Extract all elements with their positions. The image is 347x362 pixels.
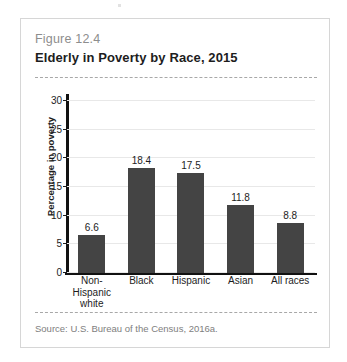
bar[interactable] <box>177 173 204 273</box>
figure-title: Elderly in Poverty by Race, 2015 <box>35 50 238 65</box>
bar-column[interactable]: 17.5 <box>177 101 204 273</box>
dashed-rule-bottom <box>35 312 317 313</box>
x-tick-label: Non-Hispanicwhite <box>67 275 117 310</box>
bar-column[interactable]: 6.6 <box>78 101 105 273</box>
bar-column[interactable]: 8.8 <box>277 101 304 273</box>
y-tick-label: 0 <box>56 267 62 278</box>
bar-value-label: 18.4 <box>132 155 151 166</box>
bar-value-label: 8.8 <box>283 210 297 221</box>
bar-value-label: 17.5 <box>181 160 200 171</box>
x-axis-tick-labels: Non-HispanicwhiteBlackHispanicAsianAll r… <box>67 275 315 310</box>
x-tick-label: All races <box>265 275 315 310</box>
y-tick-label: 30 <box>51 95 62 106</box>
source-note: Source: U.S. Bureau of the Census, 2016a… <box>35 323 218 334</box>
image-speck-artifact <box>118 4 121 7</box>
y-tick-label: 15 <box>51 181 62 192</box>
y-tick-label: 5 <box>56 238 62 249</box>
bar-series: 6.618.417.511.88.8 <box>67 101 315 273</box>
bar[interactable] <box>227 205 254 273</box>
x-tick-label: Hispanic <box>166 275 216 310</box>
y-tick-label: 10 <box>51 209 62 220</box>
x-tick-label: Black <box>117 275 167 310</box>
dashed-rule-top <box>35 77 317 78</box>
figure-card-inner: Figure 12.4 Elderly in Poverty by Race, … <box>21 19 329 347</box>
x-tick-label: Asian <box>216 275 266 310</box>
plot-area: 051015202530 6.618.417.511.88.8 <box>67 101 315 273</box>
bar-chart: Percentage in poverty 051015202530 6.618… <box>29 89 323 304</box>
bar[interactable] <box>78 235 105 273</box>
bar-column[interactable]: 11.8 <box>227 101 254 273</box>
bar-value-label: 6.6 <box>85 222 99 233</box>
figure-card: Figure 12.4 Elderly in Poverty by Race, … <box>20 18 330 348</box>
bar[interactable] <box>128 168 155 273</box>
y-tick-label: 20 <box>51 152 62 163</box>
bar-column[interactable]: 18.4 <box>128 101 155 273</box>
bar[interactable] <box>277 223 304 273</box>
y-tick-label: 25 <box>51 123 62 134</box>
bar-value-label: 11.8 <box>231 192 250 203</box>
figure-number: Figure 12.4 <box>35 32 100 46</box>
